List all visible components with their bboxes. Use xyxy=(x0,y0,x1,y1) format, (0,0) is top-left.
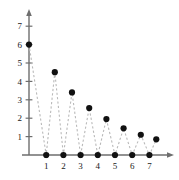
y-axis-label-2: 2 xyxy=(18,113,23,123)
y-axis-label-1: 1 xyxy=(18,132,23,142)
x-axis-label-1: 1 xyxy=(44,161,49,171)
data-connector-dashed-path xyxy=(29,45,156,155)
x-axis-label-5: 5 xyxy=(113,161,118,171)
y-axis-label-7: 7 xyxy=(18,21,23,31)
data-point xyxy=(112,152,118,158)
chart-container: 1234567 1234567 xyxy=(0,0,179,180)
y-axis-tick-labels: 1234567 xyxy=(18,21,23,141)
data-point xyxy=(69,89,75,95)
data-point-markers xyxy=(26,42,159,159)
y-axis-label-5: 5 xyxy=(18,58,23,68)
x-axis-label-2: 2 xyxy=(61,161,66,171)
data-point xyxy=(43,152,49,158)
data-point xyxy=(60,152,66,158)
y-axis-label-3: 3 xyxy=(18,95,23,105)
y-axis-arrow-icon xyxy=(26,9,32,16)
y-axis-label-6: 6 xyxy=(18,40,23,50)
data-point xyxy=(52,69,58,75)
y-axis-label-4: 4 xyxy=(18,77,23,87)
data-point xyxy=(86,105,92,111)
x-axis-label-3: 3 xyxy=(78,161,83,171)
x-axis-label-4: 4 xyxy=(96,161,101,171)
data-point xyxy=(153,136,159,142)
data-point xyxy=(103,116,109,122)
x-axis-label-7: 7 xyxy=(147,161,152,171)
data-point xyxy=(78,152,84,158)
x-axis-tick-labels: 1234567 xyxy=(44,161,152,171)
x-axis-label-6: 6 xyxy=(130,161,135,171)
data-point xyxy=(146,152,152,158)
damped-oscillation-scatter-chart: 1234567 1234567 xyxy=(0,0,179,180)
data-point xyxy=(138,132,144,138)
data-point xyxy=(26,42,32,48)
x-axis-arrow-icon xyxy=(167,152,174,158)
data-point xyxy=(95,152,101,158)
data-point xyxy=(129,152,135,158)
axes xyxy=(22,9,174,158)
data-point xyxy=(121,125,127,131)
